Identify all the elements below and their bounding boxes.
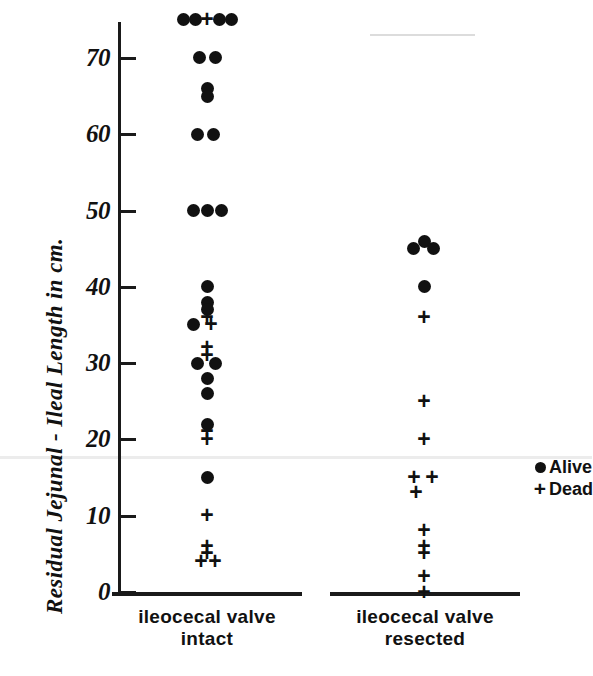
data-point-alive (177, 13, 190, 26)
baseline-group-intact (112, 592, 302, 596)
data-point-alive (407, 242, 420, 255)
data-point-alive (215, 204, 228, 217)
data-point-alive (187, 204, 200, 217)
legend-dead-label: Dead (549, 479, 593, 500)
y-axis-title: Residual Jejunal - Ileal Length in cm. (42, 238, 68, 614)
data-point-dead: + (194, 554, 209, 569)
data-point-dead: + (200, 12, 215, 27)
data-point-dead: + (417, 585, 432, 600)
data-point-alive (201, 280, 214, 293)
data-point-dead: + (417, 310, 432, 325)
legend-alive-label: Alive (549, 457, 592, 478)
data-point-dead: + (417, 394, 432, 409)
data-point-alive (201, 372, 214, 385)
y-tick-50 (121, 210, 136, 213)
data-point-alive (187, 318, 200, 331)
group-label-intact-line2: intact (112, 628, 302, 650)
data-point-alive (207, 128, 220, 141)
data-point-dead: + (208, 554, 223, 569)
data-point-alive (201, 387, 214, 400)
data-point-dead: + (200, 348, 215, 363)
legend-dead-plus-icon: + (532, 479, 548, 499)
data-point-alive (418, 280, 431, 293)
y-tick-label-70: 70 (50, 45, 110, 70)
group-label-resected: ileocecal valve resected (330, 606, 520, 651)
y-axis-line (118, 22, 121, 594)
data-point-alive (225, 13, 238, 26)
scan-artifact-line-middle (0, 456, 592, 459)
data-point-alive (201, 471, 214, 484)
data-point-alive (427, 242, 440, 255)
data-point-dead: + (417, 432, 432, 447)
y-tick-70 (121, 57, 136, 60)
data-point-alive (193, 51, 206, 64)
group-label-resected-line2: resected (330, 628, 520, 650)
data-point-alive (209, 51, 222, 64)
y-tick-30 (121, 362, 136, 365)
data-point-dead: + (200, 432, 215, 447)
data-point-dead: + (409, 485, 424, 500)
y-tick-10 (121, 515, 136, 518)
y-tick-60 (121, 133, 136, 136)
scan-artifact-line-top (370, 34, 475, 36)
data-point-dead: + (204, 317, 219, 332)
group-label-intact: ileocecal valve intact (112, 606, 302, 651)
data-point-dead: + (425, 470, 440, 485)
group-label-resected-line1: ileocecal valve (330, 606, 520, 628)
group-label-intact-line1: ileocecal valve (112, 606, 302, 628)
data-point-dead: + (417, 546, 432, 561)
data-point-alive (201, 90, 214, 103)
y-tick-20 (121, 438, 136, 441)
y-tick-40 (121, 286, 136, 289)
data-point-dead: + (200, 508, 215, 523)
data-point-alive (201, 204, 214, 217)
y-tick-label-50: 50 (50, 198, 110, 223)
legend-alive-dot-icon (532, 457, 548, 477)
data-point-alive (191, 128, 204, 141)
y-tick-label-60: 60 (50, 121, 110, 146)
